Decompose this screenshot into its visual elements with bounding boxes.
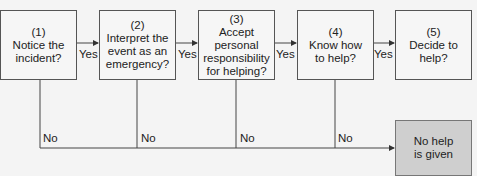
no-label-3: No [240, 132, 255, 144]
step-number: (3) [229, 13, 243, 26]
step-box-2: (2) Interpret the event as an emergency? [99, 10, 176, 80]
yes-label-4: Yes [374, 48, 393, 60]
no-label-1: No [43, 132, 58, 144]
no-label-2: No [141, 132, 156, 144]
step-text: Notice the incident? [9, 39, 69, 65]
step-box-5: (5) Decide to help? [395, 10, 472, 80]
step-number: (4) [328, 26, 342, 39]
yes-label-1: Yes [79, 48, 98, 60]
step-number: (5) [426, 26, 440, 39]
step-number: (1) [31, 26, 45, 39]
yes-label-3: Yes [276, 48, 295, 60]
step-text: Interpret the event as an emergency? [104, 32, 172, 71]
step-box-4: (4) Know how to help? [297, 10, 374, 80]
step-text: Accept personal responsibility for helpi… [199, 26, 275, 78]
step-box-1: (1) Notice the incident? [0, 10, 77, 80]
step-number: (2) [130, 19, 144, 32]
step-text: Know how to help? [304, 39, 368, 65]
no-label-4: No [338, 132, 353, 144]
step-text: Decide to help? [396, 39, 472, 65]
step-box-3: (3) Accept personal responsibility for h… [198, 10, 275, 80]
outcome-text: No help is given [409, 135, 459, 161]
yes-label-2: Yes [178, 48, 197, 60]
outcome-box: No help is given [395, 120, 472, 176]
